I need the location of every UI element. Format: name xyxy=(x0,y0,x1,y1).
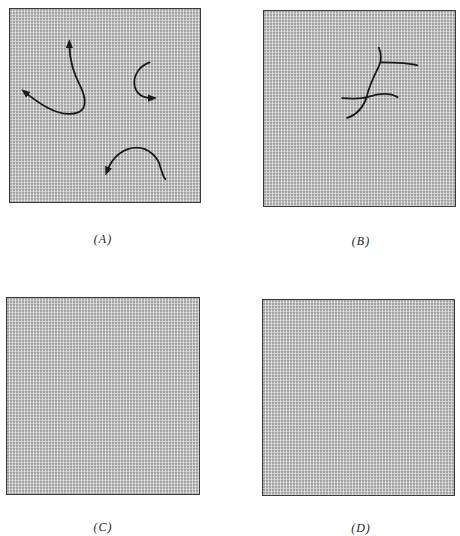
curve-upper-branch xyxy=(381,62,418,65)
panel-a xyxy=(9,8,201,203)
panel-c-label: (C) xyxy=(94,520,113,535)
curve-main-vertical xyxy=(347,48,381,118)
curve-c-arrow xyxy=(134,62,152,98)
panel-d xyxy=(262,299,455,496)
curve-j-arrow xyxy=(25,44,85,114)
panel-c xyxy=(6,297,200,495)
panel-b-label: (B) xyxy=(352,234,370,249)
panel-d-label: (D) xyxy=(351,521,371,536)
curve-lower-horizontal xyxy=(342,94,397,99)
panel-b xyxy=(263,10,456,207)
panel-a-curves xyxy=(10,9,200,202)
panel-a-label: (A) xyxy=(94,232,112,247)
panel-b-curves xyxy=(264,11,455,206)
curve-arch-arrow xyxy=(107,148,165,180)
